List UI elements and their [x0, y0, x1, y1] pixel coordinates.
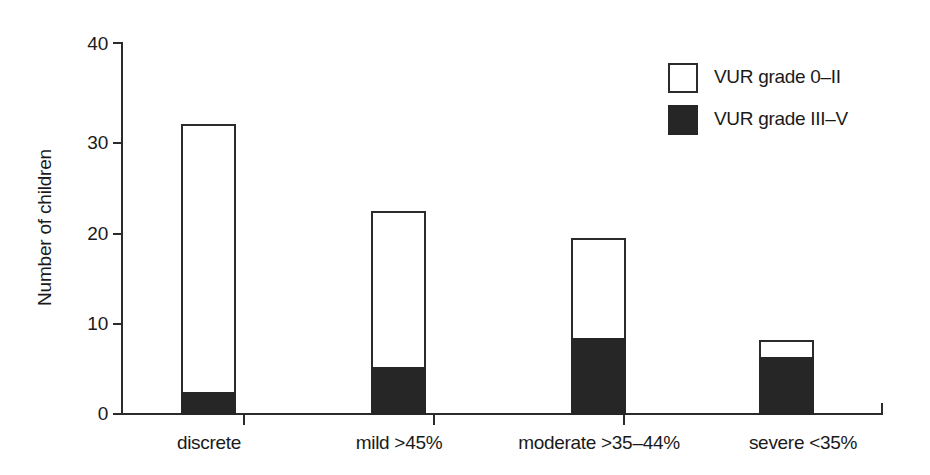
y-axis-tick-40: [113, 42, 122, 44]
chart-figure: 40 30 20 10 0 Number of children discret…: [0, 0, 930, 475]
y-axis-title: Number of children: [35, 108, 54, 348]
x-axis-tick-end: [881, 403, 883, 414]
bar-segment-vur-iii-v-moderate: [571, 338, 626, 415]
y-axis-tick-30: [113, 142, 122, 144]
x-axis-tick-2: [433, 415, 435, 425]
legend-swatch-filled-icon: [668, 105, 698, 135]
x-axis-tick-3: [623, 415, 625, 425]
x-axis-label-discrete: discrete: [148, 432, 270, 454]
y-axis-tick-10: [113, 323, 122, 325]
x-axis-tick-1: [243, 415, 245, 425]
y-tick-label-0: 0: [40, 404, 108, 423]
bar-segment-vur-iii-v-mild: [371, 367, 426, 415]
x-axis-label-severe: severe <35%: [715, 432, 891, 454]
y-axis-line: [121, 42, 123, 415]
bar-segment-vur-0-ii-discrete: [181, 124, 236, 415]
bar-segment-vur-iii-v-severe: [759, 357, 814, 415]
legend-label-vur-iii-v: VUR grade III–V: [714, 108, 848, 130]
x-axis-label-mild: mild >45%: [325, 432, 473, 454]
y-tick-label-40-wrap: 40: [40, 34, 108, 53]
y-tick-label-0-wrap: 0: [40, 404, 108, 423]
legend-label-vur-0-ii: VUR grade 0–II: [714, 66, 841, 88]
bar-segment-vur-iii-v-discrete: [181, 392, 236, 415]
x-axis-label-moderate: moderate >35–44%: [480, 432, 718, 454]
y-tick-label-40: 40: [40, 34, 108, 53]
y-axis-tick-20: [113, 233, 122, 235]
legend-swatch-hollow-icon: [668, 63, 698, 93]
